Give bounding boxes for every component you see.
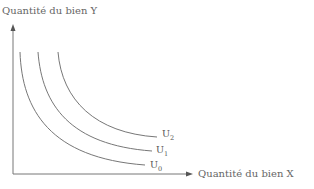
curve-u2	[58, 52, 157, 137]
curve-u1	[38, 52, 152, 151]
x-axis-arrow-icon	[186, 172, 193, 177]
curve-label-u2: U2	[162, 128, 174, 142]
y-axis-arrow-icon	[11, 24, 16, 31]
curve-label-u1: U1	[156, 144, 168, 158]
curve-label-u0: U0	[150, 159, 162, 173]
